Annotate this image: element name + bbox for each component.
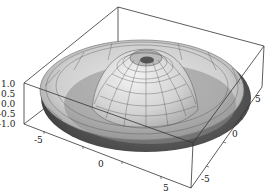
plot-canvas: 1.0 0.5 0.0 -0.5 -1.0 -5 0 5 5 0 -5: [0, 0, 267, 193]
x-tick: 5: [163, 183, 169, 193]
z-axis-labels: 1.0 0.5 0.0 -0.5 -1.0: [0, 79, 16, 129]
surface: [40, 40, 251, 152]
z-tick: -1.0: [0, 119, 16, 129]
y-tick: 0: [232, 129, 238, 139]
x-tick: -5: [34, 135, 43, 145]
z-tick: 1.0: [1, 79, 16, 89]
surface-plot: 1.0 0.5 0.0 -0.5 -1.0 -5 0 5 5 0 -5: [0, 0, 267, 193]
z-tick: 0.0: [1, 99, 16, 109]
y-tick: -5: [201, 174, 210, 184]
z-tick: -0.5: [0, 109, 16, 119]
z-tick: 0.5: [1, 89, 16, 99]
x-tick: 0: [98, 159, 104, 169]
y-tick: 5: [255, 94, 261, 104]
